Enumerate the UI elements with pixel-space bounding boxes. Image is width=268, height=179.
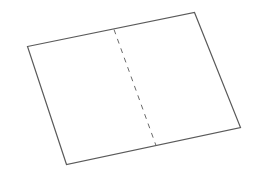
fold-line [114, 30, 156, 146]
folded-sheet-diagram [0, 0, 268, 179]
sheet-outline [28, 13, 241, 165]
